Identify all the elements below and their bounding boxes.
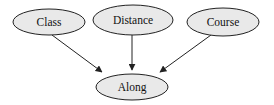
node-label: Course (207, 16, 240, 28)
node-label: Along (118, 81, 147, 94)
arrow-line (52, 35, 102, 72)
node-label: Class (37, 16, 62, 28)
nodes: ClassDistanceCourseAlong (13, 5, 259, 100)
node-distance: Distance (93, 5, 173, 35)
node-class: Class (13, 9, 85, 35)
edges (52, 35, 211, 72)
node-course: Course (187, 8, 259, 36)
node-label: Distance (113, 14, 153, 26)
arrow-line (160, 35, 211, 72)
bayesian-network-diagram: ClassDistanceCourseAlong (0, 0, 274, 105)
node-along: Along (96, 74, 168, 100)
edge-course-to-along (160, 35, 211, 72)
edge-class-to-along (52, 35, 102, 72)
